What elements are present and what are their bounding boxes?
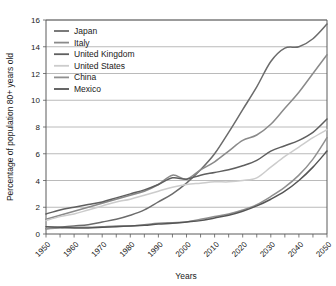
x-tick-label-group-1960: 1960	[62, 240, 81, 259]
y-tick-label-0: 0	[36, 230, 41, 239]
y-tick-label-6: 6	[36, 150, 41, 159]
series-line-mexico	[46, 151, 327, 228]
x-tick-label-1950: 1950	[33, 240, 52, 259]
x-tick-label-group-2020: 2020	[230, 240, 249, 259]
y-tick-label-12: 12	[31, 70, 40, 79]
y-tick-label-10: 10	[31, 96, 40, 105]
x-tick-label-1970: 1970	[90, 240, 109, 259]
y-tick-label-8: 8	[36, 123, 41, 132]
chart-svg: 0246810121416 19501960197019801990200020…	[0, 0, 336, 286]
y-axis-title: Percentage of population 80+ years old	[5, 53, 15, 201]
x-tick-label-group-1990: 1990	[146, 240, 165, 259]
x-tick-label-2030: 2030	[258, 240, 277, 259]
y-axis-ticks-group: 0246810121416	[31, 16, 46, 239]
x-axis-title: Years	[175, 271, 196, 281]
x-tick-label-1980: 1980	[118, 240, 137, 259]
legend-group: JapanItalyUnited KingdomUnited StatesChi…	[54, 26, 134, 94]
x-tick-label-group-1980: 1980	[118, 240, 137, 259]
x-tick-label-group-2010: 2010	[202, 240, 221, 259]
y-tick-label-16: 16	[31, 16, 40, 25]
legend-label-japan: Japan	[74, 26, 97, 36]
x-tick-label-2000: 2000	[174, 240, 193, 259]
legend-label-italy: Italy	[74, 38, 90, 48]
x-tick-label-group-1950: 1950	[33, 240, 52, 259]
y-tick-label-4: 4	[36, 177, 41, 186]
y-tick-label-2: 2	[36, 203, 41, 212]
legend-label-united-kingdom: United Kingdom	[74, 49, 134, 59]
x-tick-label-group-1970: 1970	[90, 240, 109, 259]
x-tick-label-1960: 1960	[62, 240, 81, 259]
legend-label-china: China	[74, 72, 96, 82]
x-tick-label-group-2050: 2050	[314, 240, 333, 259]
x-axis-ticks-group: 1950196019701980199020002010202020302040…	[33, 234, 333, 259]
x-tick-label-2010: 2010	[202, 240, 221, 259]
x-tick-label-2020: 2020	[230, 240, 249, 259]
y-tick-label-14: 14	[31, 43, 40, 52]
x-tick-label-group-2000: 2000	[174, 240, 193, 259]
x-tick-label-group-2040: 2040	[286, 240, 305, 259]
x-tick-label-1990: 1990	[146, 240, 165, 259]
line-chart-figure: 0246810121416 19501960197019801990200020…	[0, 0, 336, 286]
series-line-united-kingdom	[46, 119, 327, 214]
legend-label-mexico: Mexico	[74, 84, 101, 94]
legend-label-united-states: United States	[74, 61, 125, 71]
x-tick-label-2040: 2040	[286, 240, 305, 259]
x-tick-label-group-2030: 2030	[258, 240, 277, 259]
x-tick-label-2050: 2050	[314, 240, 333, 259]
